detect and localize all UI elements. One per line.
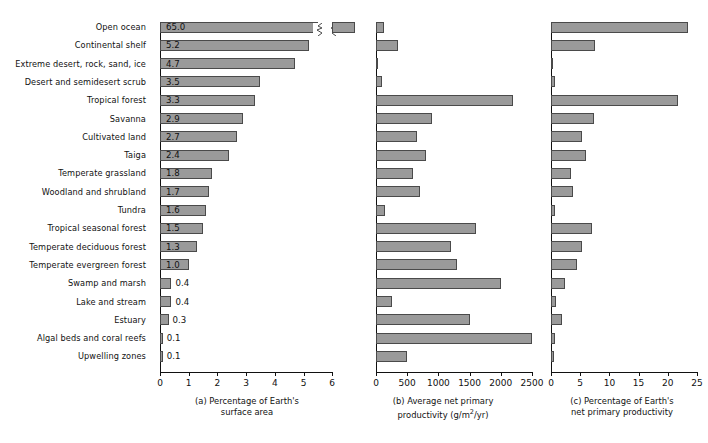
bar-c	[551, 351, 554, 362]
bar-c	[551, 76, 555, 87]
bar-c	[551, 95, 678, 106]
bar-c	[551, 186, 573, 197]
bar-c	[551, 22, 688, 33]
bar-c	[551, 168, 571, 179]
x-tick-c	[697, 372, 698, 376]
x-tick-a	[304, 372, 305, 376]
bar-c	[551, 259, 577, 270]
x-tick-label-a: 4	[272, 378, 278, 388]
x-tick-label-b: 1500	[458, 378, 481, 388]
panel-caption-b: (b) Average net primaryproductivity (g/m…	[352, 396, 534, 421]
panel-caption-a: (a) Percentage of Earth's surface area	[152, 396, 342, 418]
x-tick-label-c: 25	[691, 378, 702, 388]
x-tick-label-b: 500	[399, 378, 416, 388]
bar-c	[551, 113, 594, 124]
bar-c	[551, 314, 562, 325]
x-tick-a	[189, 372, 190, 376]
x-tick-label-a: 6	[329, 378, 335, 388]
x-tick-b	[407, 372, 408, 376]
x-tick-a	[217, 372, 218, 376]
bar-c	[551, 333, 555, 344]
bar-c	[551, 296, 556, 307]
bar-c	[551, 58, 553, 69]
x-tick-label-b: 2500	[521, 378, 544, 388]
x-tick-c	[551, 372, 552, 376]
x-tick-a	[160, 372, 161, 376]
x-tick-label-a: 2	[215, 378, 221, 388]
x-tick-c	[580, 372, 581, 376]
bar-c	[551, 223, 592, 234]
x-tick-label-a: 1	[186, 378, 192, 388]
x-tick-c	[609, 372, 610, 376]
x-axis-line-b	[376, 372, 532, 373]
x-tick-label-c: 5	[577, 378, 583, 388]
x-tick-label-a: 3	[243, 378, 249, 388]
x-tick-c	[668, 372, 669, 376]
x-tick-label-c: 20	[662, 378, 673, 388]
x-tick-label-c: 10	[604, 378, 615, 388]
x-tick-b	[438, 372, 439, 376]
x-tick-label-b: 2000	[489, 378, 512, 388]
x-tick-a	[332, 372, 333, 376]
x-tick-a	[246, 372, 247, 376]
bar-c	[551, 205, 555, 216]
panel-caption-c: (c) Percentage of Earth's net primary pr…	[536, 396, 708, 418]
bar-c	[551, 40, 595, 51]
caption-line2: productivity (g/m2/yr)	[398, 410, 489, 420]
figure-root: Open oceanContinental shelfExtreme deser…	[0, 0, 708, 443]
x-tick-a	[275, 372, 276, 376]
x-tick-c	[639, 372, 640, 376]
x-axis-line-c	[551, 372, 697, 373]
bar-c	[551, 278, 565, 289]
caption-line1: (b) Average net primary	[393, 396, 494, 406]
bar-c	[551, 150, 586, 161]
x-tick-b	[376, 372, 377, 376]
x-tick-label-a: 0	[157, 378, 163, 388]
x-tick-label-a: 5	[301, 378, 307, 388]
x-tick-b	[532, 372, 533, 376]
x-tick-label-b: 1000	[427, 378, 450, 388]
x-tick-b	[470, 372, 471, 376]
panel-c: 0510152025(c) Percentage of Earth's net …	[0, 22, 708, 372]
bar-c	[551, 241, 582, 252]
x-tick-label-b: 0	[373, 378, 379, 388]
x-tick-label-c: 15	[633, 378, 644, 388]
bar-c	[551, 131, 582, 142]
x-tick-b	[501, 372, 502, 376]
x-tick-label-c: 0	[548, 378, 554, 388]
